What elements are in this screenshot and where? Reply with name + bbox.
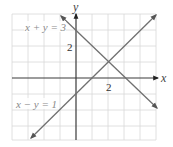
y-axis-label: y [72,0,79,14]
y-tick-label-2: 2 [67,41,73,53]
x-tick-label-2: 2 [106,81,112,93]
line-x-minus-y-eq-1 [31,15,156,138]
equation-label-x-minus-y: x − y = 1 [15,98,57,110]
x-axis-label: x [160,71,167,85]
equation-label-x-plus-y: x + y = 3 [24,21,67,33]
coordinate-plane: x y 2 2 x + y = 3 x − y = 1 [0,0,173,147]
